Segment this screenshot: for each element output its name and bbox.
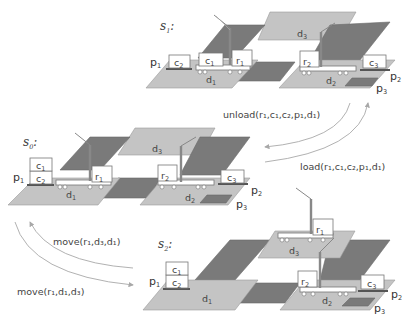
state-label-s1: s1: — [160, 19, 174, 35]
state-s2: s2: d3 d1 d2 p1 c2 c1 r1 r2 — [143, 188, 402, 316]
state-s0: s0: d3 d1 d2 p1 c2 c1 r1 r2 — [8, 128, 262, 212]
state-label-s2: s2: — [158, 237, 172, 253]
arrow-move-fwd — [15, 222, 133, 285]
label-p2: p2 — [390, 70, 401, 84]
label-p3: p3 — [376, 82, 387, 96]
label-p1: p1 — [13, 171, 24, 185]
state-s1: s1: d3 d1 d2 p1 c2 c1 r1 — [146, 12, 401, 96]
dock-worker-state-diagram: s1: d3 d1 d2 p1 c2 c1 r1 — [0, 0, 413, 320]
label-p3: p3 — [374, 302, 385, 316]
action-move-back: move(r₁,d₃,d₁) — [53, 236, 120, 247]
label-p1: p1 — [150, 56, 161, 70]
dock-d1-plate — [143, 280, 258, 310]
action-load: load(r₁,c₁,c₂,p₁,d₁) — [300, 161, 385, 172]
state-label-s0: s0: — [23, 135, 37, 151]
action-move-fwd: move(r₁,d₁,d₃) — [17, 286, 84, 297]
label-p2: p2 — [251, 184, 262, 198]
label-p3: p3 — [236, 198, 247, 212]
label-p1: p1 — [149, 275, 160, 289]
label-p2: p2 — [391, 288, 402, 302]
action-unload: unload(r₁,c₁,c₂,p₁,d₁) — [223, 109, 320, 120]
